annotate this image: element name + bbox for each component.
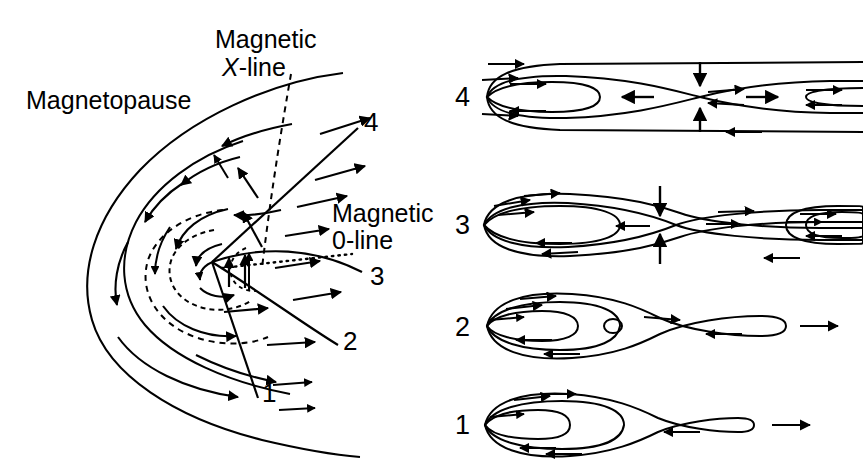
vortex-arc-5 bbox=[163, 306, 236, 336]
magnetic-zeroline-label-line1: Magnetic bbox=[332, 199, 433, 227]
field-arrow-u1 bbox=[238, 168, 258, 198]
left-panel-group: Magnetic X-line Magnetopause Magnetic 0-… bbox=[26, 25, 433, 457]
stage-label-2: 2 bbox=[455, 312, 470, 342]
stage3-island-right-inner bbox=[806, 212, 863, 238]
stage4-island-left bbox=[487, 82, 600, 112]
stage2-core-loop bbox=[487, 311, 578, 341]
xline-italic-x: X bbox=[221, 53, 240, 81]
cut-line-2 bbox=[212, 262, 338, 345]
diagram-canvas: Magnetic X-line Magnetopause Magnetic 0-… bbox=[0, 0, 863, 470]
dashed-ring-inner bbox=[170, 230, 252, 310]
field-arrow-r6 bbox=[293, 292, 341, 300]
stage-label-1: 1 bbox=[455, 410, 470, 440]
field-arrow-r10 bbox=[279, 408, 315, 410]
cut-label-1: 1 bbox=[262, 378, 276, 408]
xline-suffix: -line bbox=[239, 53, 286, 81]
stage1-core-loop bbox=[485, 410, 570, 439]
vortex-arc-11 bbox=[222, 124, 292, 146]
stage-label-4: 4 bbox=[455, 82, 470, 112]
stage3-flow-g bbox=[718, 211, 754, 212]
vortex-arc-8 bbox=[155, 227, 170, 274]
vortex-arc-9 bbox=[145, 183, 183, 222]
cut-label-2: 2 bbox=[343, 326, 357, 356]
vortex-arc-10 bbox=[181, 157, 240, 185]
stage-2-group: 2 bbox=[455, 294, 838, 359]
magnetic-xline-label-line2: X-line bbox=[221, 53, 286, 81]
magnetopause-curve-outer bbox=[87, 73, 360, 457]
field-arrow-u3 bbox=[214, 155, 228, 178]
stage-1-group: 1 bbox=[455, 394, 810, 457]
cut-label-4: 4 bbox=[364, 107, 378, 137]
field-arrow-r1 bbox=[320, 118, 370, 134]
vortex-arc-6 bbox=[118, 337, 238, 397]
stage3-island-left bbox=[484, 206, 620, 244]
cut-label-3: 3 bbox=[370, 261, 384, 291]
field-arrow-r9 bbox=[273, 382, 312, 385]
vortex-arc-4 bbox=[200, 288, 234, 297]
magnetic-zeroline-label-line2: 0-line bbox=[332, 226, 393, 254]
vortex-arc-12 bbox=[234, 210, 281, 215]
field-arrow-r4 bbox=[285, 229, 329, 236]
stage-label-3: 3 bbox=[455, 210, 470, 240]
stage3-flow-e bbox=[542, 252, 578, 254]
magnetic-x-line-dashed bbox=[262, 74, 291, 268]
magnetopause-curve-inner bbox=[124, 141, 290, 394]
magnetopause-label: Magnetopause bbox=[26, 86, 191, 114]
magnetic-xline-label-line1: Magnetic bbox=[215, 25, 316, 53]
vortex-arc-1 bbox=[176, 209, 228, 249]
stage-3-group: 3 bbox=[455, 186, 863, 264]
right-panel-group: 4 3 bbox=[455, 62, 863, 456]
figure-root: Magnetic X-line Magnetopause Magnetic 0-… bbox=[0, 0, 863, 470]
field-arrow-r8 bbox=[267, 342, 315, 345]
field-arrow-r2 bbox=[315, 166, 365, 180]
stage-4-group: 4 bbox=[455, 62, 863, 132]
stage1-inner-lobe bbox=[485, 401, 624, 449]
stage4-right-flow-bot bbox=[708, 103, 744, 105]
